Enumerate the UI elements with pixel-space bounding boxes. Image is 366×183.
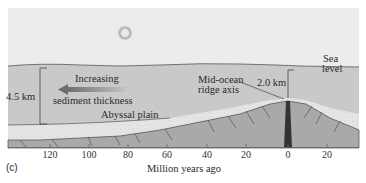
tick-label-120: 120 (43, 149, 58, 160)
tick-label-100: 100 (82, 149, 97, 160)
label-2-0-km: 2.0 km (257, 77, 286, 88)
sky (8, 8, 359, 68)
tick-label-40: 40 (202, 149, 212, 160)
tick-label-20-left: 20 (241, 149, 251, 160)
label-abyssal-plain: Abyssal plain (101, 109, 158, 120)
tick-label-20-right: 20 (322, 149, 332, 160)
label-ridge-axis: ridge axis (198, 84, 239, 95)
label-sediment-thickness: sediment thickness (53, 95, 133, 106)
panel-label: (c) (6, 162, 18, 173)
label-4-5-km: 4.5 km (6, 91, 35, 102)
tick-label-80: 80 (123, 149, 133, 160)
label-increasing: Increasing (75, 73, 119, 84)
sun-icon (117, 25, 133, 41)
x-axis-title: Million years ago (147, 163, 221, 174)
seafloor-diagram: 4.5 km Increasing sediment thickness Aby… (0, 0, 366, 183)
tick-label-0: 0 (286, 149, 291, 160)
tick-label-60: 60 (162, 149, 172, 160)
label-level: level (322, 63, 342, 74)
